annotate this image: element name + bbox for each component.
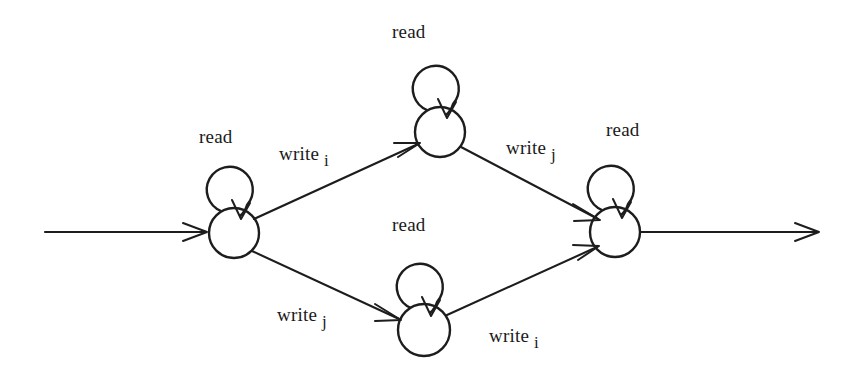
transition-label-start-to-lower: writej	[277, 305, 327, 324]
diagram-canvas	[0, 0, 859, 376]
state-machine-diagram: read read read read writei writej writej…	[0, 0, 859, 376]
exit-arrow	[641, 223, 819, 241]
state-start[interactable]	[207, 167, 259, 258]
transition-verb: write	[277, 304, 317, 325]
self-loop-label-start: read	[199, 127, 233, 146]
transition-label-upper-to-final: writej	[506, 138, 556, 157]
state-final[interactable]	[588, 166, 640, 257]
edge-upper-to-final	[461, 147, 600, 221]
edge-lower-to-final	[447, 245, 599, 315]
transition-operand: j	[317, 312, 327, 331]
transition-label-lower-to-final: writei	[489, 326, 539, 345]
transition-verb: write	[489, 325, 529, 346]
transition-verb: write	[279, 143, 319, 164]
self-loop-label-final: read	[606, 120, 640, 139]
transition-verb: write	[506, 137, 546, 158]
transition-operand: i	[319, 151, 329, 170]
entry-arrow	[45, 223, 207, 241]
transition-label-start-to-upper: writei	[279, 144, 329, 163]
transition-operand: j	[546, 145, 556, 164]
self-loop-label-lower: read	[392, 215, 426, 234]
self-loop-label-upper: read	[392, 22, 426, 41]
transition-operand: i	[529, 333, 539, 352]
state-lower[interactable]	[397, 264, 450, 356]
